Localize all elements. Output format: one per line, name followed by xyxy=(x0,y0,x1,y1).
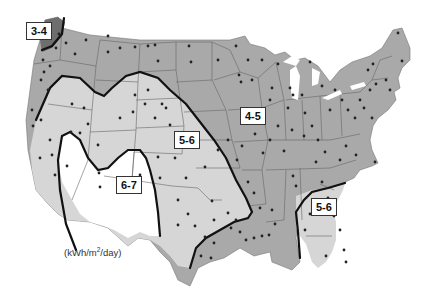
zone-label-5-6-west: 5-6 xyxy=(174,131,200,149)
zone-label-6-7: 6-7 xyxy=(116,176,142,194)
units-legend: (kWh/m2/day) xyxy=(64,246,121,258)
zone-label-5-6-southeast: 5-6 xyxy=(311,198,337,216)
units-suffix: /day) xyxy=(100,247,121,258)
units-prefix: (kWh/m xyxy=(64,247,97,258)
zone-label-4-5: 4-5 xyxy=(240,107,266,125)
zone-5-6-southeast-region xyxy=(296,183,345,268)
zone-label-3-4: 3-4 xyxy=(26,22,52,40)
